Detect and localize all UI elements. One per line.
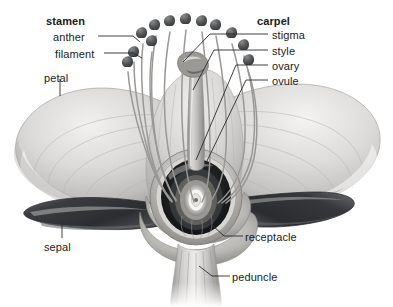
label-stamen: stamen bbox=[46, 16, 85, 27]
ovule bbox=[184, 184, 208, 216]
label-ovule: ovule bbox=[272, 76, 299, 87]
flower-illustration bbox=[0, 0, 393, 307]
label-receptacle: receptacle bbox=[245, 232, 297, 243]
flower-diagram: stamen anther filament petal carpel stig… bbox=[0, 0, 393, 307]
leader-anther bbox=[98, 36, 140, 42]
style bbox=[188, 74, 205, 171]
label-sepal: sepal bbox=[44, 242, 71, 253]
label-style: style bbox=[272, 46, 295, 57]
label-carpel: carpel bbox=[257, 16, 290, 27]
label-ovary: ovary bbox=[272, 61, 299, 72]
label-petal: petal bbox=[44, 73, 68, 84]
label-filament: filament bbox=[55, 49, 94, 60]
label-peduncle: peduncle bbox=[232, 272, 277, 283]
label-stigma: stigma bbox=[272, 30, 305, 41]
label-anther: anther bbox=[53, 32, 85, 43]
